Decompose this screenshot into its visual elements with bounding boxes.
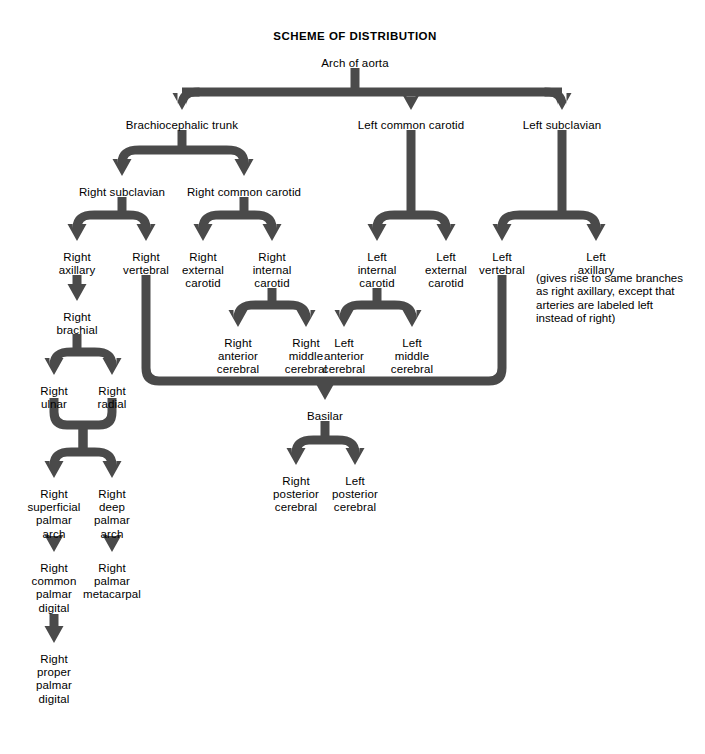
node-right_anterior_cerebral: Right anterior cerebral (217, 337, 259, 377)
connector-aorta-trunk (351, 68, 360, 88)
connector-lcc-stem-split-stem (407, 130, 416, 215)
connector-basilar-split-right (325, 436, 365, 466)
node-left_middle_cerebral: Left middle cerebral (391, 337, 433, 377)
connector-lcc-stem-split-right (411, 211, 456, 242)
connector-lcc-stem-split-left (368, 211, 412, 242)
connector-rsub-split-left (68, 211, 123, 242)
node-left_external_carotid: Left external carotid (425, 251, 467, 291)
node-right_superficial_palmar_arch: Right superficial palmar arch (27, 488, 80, 541)
connector-brachial-split-left (45, 348, 78, 376)
node-right_proper_palmar_digital: Right proper palmar digital (36, 653, 72, 706)
node-right_axillary: Right axillary (59, 251, 96, 277)
node-right_external_carotid: Right external carotid (182, 251, 224, 291)
connector-lic-split-left (335, 301, 378, 328)
node-right_middle_cerebral: Right middle cerebral (285, 337, 327, 377)
connector-aorta-bus-bar (182, 88, 562, 97)
node-right_radial: Right radial (98, 385, 127, 411)
connector-basilar-split-left (287, 436, 326, 466)
node-arch_of_aorta: Arch of aorta (321, 57, 388, 70)
node-left_subclavian: Left subclavian (523, 119, 601, 132)
connector-basilar-arrow (316, 381, 335, 400)
connector-rcc-split-left (194, 211, 245, 242)
node-left_anterior_cerebral: Left anterior cerebral (323, 337, 365, 377)
node-right_ulnar: Right ulnar (40, 385, 67, 411)
connector-ulnar-radial-merge-split-left (45, 448, 84, 479)
connector-ric-split-left (229, 301, 273, 328)
connector-trunk-split-left (113, 146, 183, 177)
node-basilar: Basilar (307, 410, 343, 423)
node-left_vertebral: Left vertebral (479, 251, 525, 277)
node-right_subclavian: Right subclavian (79, 186, 165, 199)
node-right_brachial: Right brachial (56, 311, 97, 337)
connector-trunk-split-right (182, 146, 254, 177)
node-right_palmar_metacarpal: Right palmar metacarpal (83, 562, 141, 602)
connector-lic-split-right (377, 301, 422, 328)
node-left_posterior_cerebral: Left posterior cerebral (332, 475, 378, 515)
left-axillary-note: (gives rise to same branches as right ax… (536, 272, 683, 326)
connector-rsub-split-right (122, 211, 156, 242)
node-right_common_palmar_digital: Right common palmar digital (32, 562, 77, 615)
connector-lsub-split-left (493, 211, 563, 242)
node-right_posterior_cerebral: Right posterior cerebral (273, 475, 319, 515)
node-right_vertebral: Right vertebral (123, 251, 169, 277)
connector-rcc-split-right (244, 211, 282, 242)
node-right_common_carotid: Right common carotid (187, 186, 301, 199)
connector-layer (0, 0, 705, 754)
connector-brachial-split-right (77, 348, 122, 376)
node-left_internal_carotid: Left internal carotid (358, 251, 397, 291)
connector-ulnar-radial-merge-split-right (83, 448, 122, 479)
node-right_internal_carotid: Right internal carotid (253, 251, 292, 291)
connector-ric-split-right (272, 301, 316, 328)
connector-common-proper (45, 614, 64, 643)
connector-lsub-split-right (562, 211, 606, 242)
node-brachiocephalic_trunk: Brachiocephalic trunk (126, 119, 238, 132)
node-left_common_carotid: Left common carotid (358, 119, 464, 132)
connector-raxil-brachial (68, 275, 87, 301)
diagram-page: SCHEME OF DISTRIBUTION Arch of aortaBrac… (0, 0, 705, 754)
connector-lsub-split-stem (558, 130, 567, 215)
node-right_deep_palmar_arch: Right deep palmar arch (94, 488, 130, 541)
